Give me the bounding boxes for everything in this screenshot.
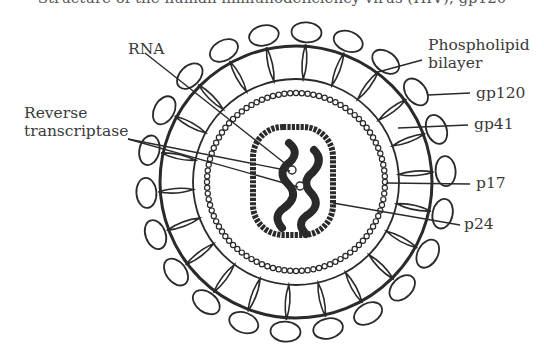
p17-bead bbox=[338, 256, 343, 261]
leader-gp120 bbox=[428, 93, 470, 95]
gp41-stalk bbox=[378, 99, 406, 120]
hiv-structure-diagram: Structure of the human immunodeficiency … bbox=[0, 0, 544, 348]
gp41-stalk bbox=[230, 61, 247, 92]
gp120-head bbox=[135, 177, 157, 208]
p17-bead bbox=[254, 100, 259, 105]
p17-bead bbox=[343, 105, 348, 110]
p17-bead bbox=[305, 91, 310, 96]
p17-bead bbox=[270, 93, 275, 98]
gp120-head bbox=[247, 22, 281, 48]
gp41-stalk bbox=[345, 272, 362, 303]
p17-bead bbox=[239, 250, 244, 255]
gp41-stalk bbox=[266, 47, 274, 81]
p17-bead bbox=[382, 191, 387, 196]
p17-bead bbox=[293, 268, 298, 273]
p17-bead bbox=[219, 130, 224, 135]
p17-bead bbox=[207, 202, 212, 207]
p17-bead bbox=[305, 268, 310, 273]
p17-bead bbox=[249, 102, 254, 107]
p17-bead bbox=[209, 208, 214, 213]
p17-bead bbox=[293, 90, 298, 95]
label-p24: p24 bbox=[464, 215, 494, 233]
gp120-head bbox=[136, 134, 162, 168]
p17-bead bbox=[348, 109, 353, 114]
gp120-head bbox=[311, 316, 345, 342]
p17-bead bbox=[205, 168, 210, 173]
p17-bead bbox=[288, 268, 293, 273]
gp120-head bbox=[159, 254, 193, 290]
gp41-stalk bbox=[158, 188, 193, 193]
gp41-stalk bbox=[358, 71, 379, 99]
p17-bead bbox=[352, 112, 357, 117]
gp120-head bbox=[148, 92, 180, 128]
gp41-stalk bbox=[248, 279, 260, 312]
gp120-head bbox=[350, 298, 386, 330]
p17-bead bbox=[211, 145, 216, 150]
p17-bead bbox=[204, 179, 209, 184]
p17-bead bbox=[376, 145, 381, 150]
p17-bead bbox=[259, 97, 264, 102]
label-rna: RNA bbox=[128, 40, 164, 58]
label-gp120: gp120 bbox=[476, 84, 525, 102]
gp120-head bbox=[368, 45, 404, 79]
p17-bead bbox=[382, 185, 387, 190]
label-phospholipid-2: bilayer bbox=[428, 54, 482, 72]
p17-bead bbox=[338, 102, 343, 107]
p17-bead bbox=[322, 264, 327, 269]
p17-bead bbox=[370, 224, 375, 229]
gp41-stalk bbox=[175, 116, 206, 133]
p17-bead bbox=[343, 253, 348, 258]
p17-bead bbox=[382, 168, 387, 173]
reverse-transcriptase-1 bbox=[288, 166, 296, 174]
p17-bead bbox=[352, 246, 357, 251]
p17-bead bbox=[311, 92, 316, 97]
p17-bead bbox=[216, 135, 221, 140]
p17-bead bbox=[235, 246, 240, 251]
p17-bead bbox=[379, 202, 384, 207]
p17-bead bbox=[288, 91, 293, 96]
gp41-stalk bbox=[392, 134, 425, 146]
p17-bead bbox=[356, 116, 361, 121]
p17-bead bbox=[316, 93, 321, 98]
p17-bead bbox=[239, 109, 244, 114]
label-phospholipid-1: Phospholipid bbox=[428, 36, 530, 54]
outer-membrane bbox=[160, 46, 432, 318]
p17-bead bbox=[367, 130, 372, 135]
p17-bead bbox=[360, 238, 365, 243]
p17-bead bbox=[382, 174, 387, 179]
label-reverse-transcriptase-2: transcriptase bbox=[24, 122, 128, 140]
gp41-stalk bbox=[397, 204, 431, 212]
gp120-head bbox=[435, 155, 457, 186]
p17-bead bbox=[282, 91, 287, 96]
p17-bead bbox=[373, 219, 378, 224]
p17-bead bbox=[230, 242, 235, 247]
gp120-head bbox=[399, 74, 433, 110]
label-p17: p17 bbox=[476, 174, 506, 192]
p17-bead bbox=[360, 121, 365, 126]
p17-bead bbox=[282, 268, 287, 273]
p17-bead bbox=[265, 95, 270, 100]
gp41-stalk bbox=[302, 44, 307, 79]
p17-bead bbox=[211, 213, 216, 218]
gp41-stalk bbox=[318, 283, 326, 317]
p17-bead bbox=[254, 259, 259, 264]
p17-bead bbox=[214, 140, 219, 145]
p17-bead bbox=[205, 191, 210, 196]
p17-bead bbox=[223, 234, 228, 239]
p17-bead bbox=[381, 197, 386, 202]
p17-bead bbox=[219, 229, 224, 234]
p17-bead bbox=[364, 125, 369, 130]
p17-bead bbox=[235, 112, 240, 117]
gp41-stalk bbox=[167, 218, 200, 230]
gp120-head bbox=[188, 285, 224, 319]
gp120-head bbox=[206, 34, 242, 66]
p17-bead bbox=[367, 229, 372, 234]
p17-bead bbox=[378, 151, 383, 156]
p17-bead bbox=[364, 234, 369, 239]
p17-bead bbox=[370, 135, 375, 140]
p17-bead bbox=[299, 268, 304, 273]
p17-bead bbox=[259, 262, 264, 267]
gp41-stalk bbox=[213, 265, 234, 293]
gp120-head bbox=[270, 321, 301, 343]
p17-bead bbox=[356, 242, 361, 247]
